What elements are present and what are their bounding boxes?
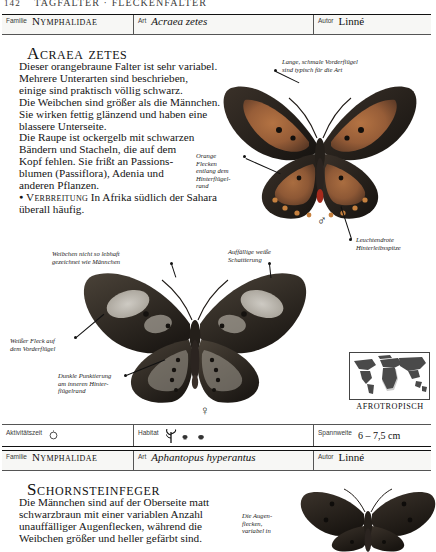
taxon-label-familie-2: Familie <box>6 453 27 460</box>
taxon-cell-autor-2: Autor Linné <box>313 451 431 470</box>
data-label-habitat: Habitat <box>138 429 159 436</box>
callout-forewing-shape: Lange, schmale Vorderflügel sind typisch… <box>282 58 432 73</box>
data-cell-habitat: Habitat <box>133 425 313 446</box>
data-cell-aktivitaetszeit: Aktivitätszeit <box>2 425 133 446</box>
taxon-value-familie-2: Nymphalidae <box>32 451 97 463</box>
callout-red-abdomen-tip: Leuchtendrote Hinterleibsspitze <box>356 236 434 251</box>
page-number: 142 <box>4 0 21 8</box>
sex-symbol-male: ♂ <box>317 213 327 229</box>
body-line: Sie wirken fettig glänzend und haben ein… <box>19 109 224 121</box>
grass-tuft-icon <box>165 429 177 443</box>
taxon-value-autor: Linné <box>339 15 365 27</box>
callout-orange-spots: Orange Flecken entlang dem Hinterflügel-… <box>196 152 242 190</box>
distribution-lead: Verbreitung <box>26 191 88 203</box>
taxon-cell-familie-2: Familie Nymphalidae <box>2 451 133 470</box>
distribution-map <box>349 352 430 400</box>
taxon-cell-art: Art Acraea zetes <box>133 15 313 34</box>
body-line: Die Weibchen sind größer als die Männche… <box>19 97 224 109</box>
taxon-label-art: Art <box>138 17 146 24</box>
taxon-cell-art-2: Art Aphantopus hyperantus <box>133 451 313 470</box>
taxon-value-art: Acraea zetes <box>151 15 207 27</box>
taxon-label-autor: Autor <box>318 17 334 24</box>
body-line: einige sind praktisch völlig schwarz. <box>19 85 224 97</box>
taxon-cell-familie: Familie Nymphalidae <box>2 15 133 34</box>
shrub-icon <box>197 432 207 440</box>
distribution-line: ●Verbreitung In Afrika südlich der Sahar… <box>19 192 224 216</box>
taxon-bar-acraea: Familie Nymphalidae Art Acraea zetes Aut… <box>2 14 431 35</box>
species-body-acraea: Dieser orangebraune Falter ist sehr vari… <box>19 61 224 216</box>
aktivitaetszeit-icons <box>48 430 59 441</box>
taxon-value-autor-2: Linné <box>339 451 365 463</box>
callout-dark-dotting: Dunkle Punktierung am inneren Hinter- fl… <box>58 372 148 395</box>
body-line: unauffälliger Augenflecken, während die <box>19 521 234 533</box>
taxon-value-familie: Nymphalidae <box>32 15 97 27</box>
data-label-aktivitaetszeit: Aktivitätszeit <box>6 429 42 436</box>
callout-female-markings: Weibchen nicht so lebhaft gezeichnet wie… <box>52 250 170 265</box>
shrub-icon <box>182 432 192 440</box>
sun-icon <box>48 430 59 441</box>
body-line: Weibchen größer und heller gefärbt sind. <box>19 533 234 545</box>
species-body-aphantopus: Die Männchen sind auf der Oberseite matt… <box>19 497 234 545</box>
taxon-value-art-2: Aphantopus hyperantus <box>151 451 255 463</box>
map-region-label: AFROTROPISCH <box>349 402 431 411</box>
taxon-label-familie: Familie <box>6 17 27 24</box>
running-head-text: TAGFALTER · FLECKENFALTER <box>34 0 207 8</box>
callout-eyespots: Die Augen- flecken, variabel in <box>242 512 296 535</box>
taxon-label-art-2: Art <box>138 453 146 460</box>
butterfly-ringlet-illustration <box>296 488 436 552</box>
callout-white-forewing-patch: Weißer Fleck auf dem Vorderflügel <box>10 337 90 352</box>
taxon-bar-aphantopus: Familie Nymphalidae Art Aphantopus hyper… <box>2 450 431 471</box>
sex-symbol-female: ♀ <box>200 403 210 419</box>
callout-white-shading: Auffällige weiße Schattierung <box>228 248 306 263</box>
data-cell-spannweite: Spannweite 6 – 7,5 cm <box>313 425 431 446</box>
species-data-strip: Aktivitätszeit Habitat <box>2 424 431 447</box>
data-label-spannweite: Spannweite <box>318 429 352 436</box>
body-line: blumen (Passiflora), Adenia und <box>19 167 164 179</box>
butterfly-male-illustration <box>213 72 428 232</box>
data-value-spannweite: 6 – 7,5 cm <box>358 430 400 441</box>
running-head: 142 TAGFALTER · FLECKENFALTER <box>0 0 433 9</box>
taxon-label-autor-2: Autor <box>318 453 334 460</box>
habitat-icons <box>165 429 207 443</box>
taxon-cell-autor: Autor Linné <box>313 15 431 34</box>
